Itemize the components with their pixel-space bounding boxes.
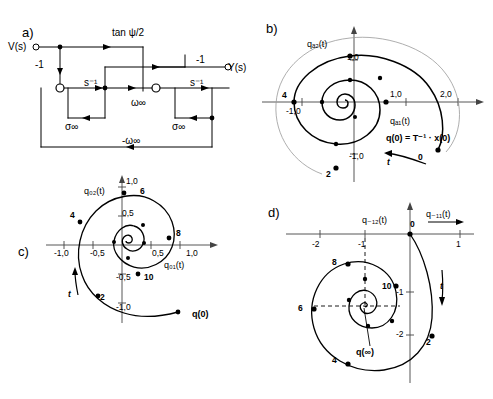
branch-dot-input — [58, 45, 63, 50]
branch-label-minus-omega: -ω∞ — [122, 136, 140, 146]
panel-a-label: a) — [22, 26, 34, 39]
panel-c-xtick-1: 1,0 — [186, 249, 198, 258]
panel-c-time-arrow — [72, 267, 78, 295]
panel-d-marker-4: 4 — [332, 356, 337, 365]
panel-d-marker-6: 6 — [298, 304, 303, 313]
panel-c-label: c) — [18, 245, 29, 258]
panel-c-ytick-m1: -1,0 — [116, 303, 131, 312]
panel-c-xtick-m1: -1,0 — [54, 249, 69, 258]
branch-label-minus-one-output: -1 — [196, 55, 205, 65]
panel-b-xtick-2: 1,0 — [390, 90, 402, 99]
panel-c-marker-8: 8 — [176, 229, 181, 238]
panel-d-plot — [252, 178, 493, 399]
summing-node-right — [152, 84, 160, 92]
branch-label-integrator-left: s⁻¹ — [84, 78, 97, 88]
panel-c-marker-2: 2 — [100, 293, 105, 302]
panel-d-center-guides — [314, 238, 400, 306]
output-terminal-label: Y(s) — [228, 63, 246, 73]
panel-c-marker-10: 10 — [144, 273, 153, 282]
panel-d-xlabel-arrow — [428, 219, 464, 225]
branch-label-integrator-right: s⁻¹ — [190, 78, 203, 88]
panel-d-xlabel: q₋₁₁(t) — [426, 210, 451, 219]
panel-b-xlabel: qₐ₁(t) — [390, 117, 410, 126]
panel-a: a) V(s) Y(s) tan ψ/2 -1 -1 s⁻¹ s⁻¹ σ∞ σ∞… — [0, 0, 255, 165]
panel-d-ylabel: q₋₁₂(t) — [362, 216, 387, 225]
panel-d: d) q₋₁₂(t) q₋₁₁(t) -2 -1 1 -1 -2 0 2 4 6… — [252, 178, 493, 399]
panel-d-marker-2: 2 — [426, 338, 431, 347]
panel-c-marker-4: 4 — [70, 211, 75, 220]
panel-c-xlabel: q₀₁(t) — [164, 261, 184, 270]
input-terminal-node — [33, 44, 39, 50]
panel-c-ylabel: q₀₂(t) — [84, 187, 105, 196]
panel-d-marker-10: 10 — [382, 282, 391, 291]
panel-b-xtick-1: -1,0 — [286, 107, 301, 116]
panel-d-xtick-m2: -2 — [312, 240, 320, 249]
panel-c-plot — [12, 165, 262, 350]
panel-d-ytick-m1: -1 — [396, 288, 404, 297]
panel-d-xtick-1: 1 — [456, 240, 461, 249]
panel-b-marker-4: 4 — [282, 91, 287, 100]
panel-c-time-label: t — [68, 290, 71, 299]
panel-b-ytick-2: -1,0 — [349, 152, 364, 161]
branch-label-omega: ω∞ — [131, 98, 146, 108]
branch-label-minus-one-input: -1 — [35, 60, 44, 70]
panel-c-xtick-m05: -0,5 — [90, 249, 105, 258]
panel-b-marker-0: 0 — [418, 153, 423, 162]
panel-d-marker-8: 8 — [332, 258, 337, 267]
panel-b-ytick-1: 1,0 — [347, 53, 359, 62]
panel-c-ytick-05: 0,5 — [122, 209, 134, 218]
panel-b-time-label: t — [387, 158, 390, 167]
panel-d-xtick-m1: -1 — [358, 240, 366, 249]
branch-label-sigma-left: σ∞ — [65, 122, 78, 132]
panel-c-ytick-1: 1,0 — [126, 177, 138, 186]
panel-d-annotation: q(∞) — [356, 348, 374, 357]
panel-b-outer-spiral — [276, 37, 460, 174]
branch-dot-right — [210, 116, 215, 121]
panel-c: c) q₀₂(t) q₀₁(t) 1,0 0,5 -0,5 -1,0 -1,0 … — [12, 165, 262, 350]
panel-d-label: d) — [268, 206, 280, 219]
panel-b-xtick-3: 2,0 — [440, 90, 452, 99]
panel-b-annotation: q(0) = T⁻¹ · x(0) — [386, 134, 450, 143]
panel-d-time-label: t — [440, 282, 443, 291]
panel-c-annotation: q(0) — [192, 310, 209, 319]
summing-node-left — [56, 84, 64, 92]
branch-label-sigma-right: σ∞ — [172, 122, 185, 132]
panel-b-label: b) — [266, 22, 278, 35]
branch-label-tan-psi-half: tan ψ/2 — [112, 28, 144, 38]
panel-b-ylabel: qₐ₂(t) — [307, 40, 327, 49]
panel-d-axes — [286, 202, 474, 383]
input-terminal-label: V(s) — [8, 42, 26, 52]
panel-b: b) qₐ₂(t) qₐ₁(t) 1,0 -1,0 -1,0 1,0 2,0 4… — [250, 12, 493, 182]
panel-c-marker-6: 6 — [140, 187, 145, 196]
panel-c-xtick-05: 0,5 — [152, 249, 164, 258]
panel-c-ytick-m05: -0,5 — [116, 273, 131, 282]
panel-d-ytick-m2: -2 — [396, 330, 404, 339]
branch-dot-mid — [103, 86, 108, 91]
panel-d-marker-0: 0 — [410, 220, 415, 229]
